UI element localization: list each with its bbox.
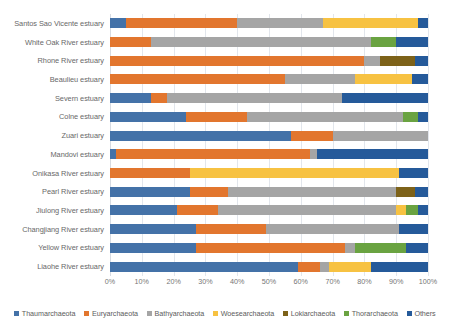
gridline-100 (428, 14, 429, 276)
bar-segment-bathyarchaeota[interactable] (364, 56, 380, 66)
bar-segment-euryarchaeota[interactable] (177, 205, 218, 215)
stacked-bar[interactable] (110, 18, 428, 28)
bar-segment-euryarchaeota[interactable] (190, 187, 228, 197)
bar-segment-euryarchaeota[interactable] (291, 131, 332, 141)
bar-row (110, 220, 428, 239)
bar-segment-euryarchaeota[interactable] (110, 56, 364, 66)
stacked-bar[interactable] (110, 56, 428, 66)
x-tick-label: 50% (262, 277, 276, 286)
bar-row (110, 201, 428, 220)
bar-segment-bathyarchaeota[interactable] (151, 37, 370, 47)
bar-segment-woesearchaeota[interactable] (396, 205, 406, 215)
stacked-bar[interactable] (110, 37, 428, 47)
bar-segment-euryarchaeota[interactable] (196, 224, 266, 234)
stacked-bar[interactable] (110, 205, 428, 215)
stacked-bar[interactable] (110, 149, 428, 159)
bar-segment-euryarchaeota[interactable] (196, 243, 345, 253)
x-tick-label: 80% (357, 277, 371, 286)
bar-segment-others[interactable] (406, 243, 428, 253)
x-tick-label: 90% (389, 277, 403, 286)
bar-segment-others[interactable] (412, 74, 428, 84)
bar-segment-thorarchaeota[interactable] (355, 243, 406, 253)
stacked-bar[interactable] (110, 262, 428, 272)
legend-swatch-icon (213, 311, 218, 316)
legend-label: Woesearchaeota (221, 309, 275, 318)
stacked-bar[interactable] (110, 224, 428, 234)
bar-segment-thorarchaeota[interactable] (403, 112, 419, 122)
stacked-bar[interactable] (110, 243, 428, 253)
bar-segment-bathyarchaeota[interactable] (247, 112, 403, 122)
stacked-bar[interactable] (110, 168, 428, 178)
bar-segment-others[interactable] (399, 168, 428, 178)
bar-segment-thaumarchaeota[interactable] (110, 93, 151, 103)
legend-item-thorarchaeota[interactable]: Thorarchaeota (344, 309, 398, 318)
bar-segment-bathyarchaeota[interactable] (333, 131, 428, 141)
bar-segment-thaumarchaeota[interactable] (110, 131, 291, 141)
bar-segment-thorarchaeota[interactable] (371, 37, 396, 47)
bar-segment-euryarchaeota[interactable] (126, 18, 237, 28)
bar-segment-euryarchaeota[interactable] (151, 93, 167, 103)
stacked-bar[interactable] (110, 112, 428, 122)
bar-segment-others[interactable] (418, 205, 428, 215)
bar-segment-bathyarchaeota[interactable] (167, 93, 342, 103)
bar-segment-thaumarchaeota[interactable] (110, 243, 196, 253)
bar-rows (110, 14, 428, 276)
bar-segment-woesearchaeota[interactable] (355, 74, 412, 84)
bar-segment-bathyarchaeota[interactable] (285, 74, 355, 84)
bar-segment-bathyarchaeota[interactable] (320, 262, 330, 272)
category-label: Rhone River estuary (0, 51, 104, 70)
legend-item-woesearchaeota[interactable]: Woesearchaeota (213, 309, 274, 318)
bar-segment-others[interactable] (396, 37, 428, 47)
bar-segment-woesearchaeota[interactable] (323, 18, 418, 28)
legend-swatch-icon (84, 311, 89, 316)
bar-segment-others[interactable] (418, 18, 428, 28)
category-label: Pearl River estuary (0, 182, 104, 201)
bar-segment-thaumarchaeota[interactable] (110, 205, 177, 215)
bar-segment-euryarchaeota[interactable] (298, 262, 320, 272)
bar-segment-woesearchaeota[interactable] (190, 168, 400, 178)
bar-segment-euryarchaeota[interactable] (110, 168, 190, 178)
bar-segment-others[interactable] (371, 262, 428, 272)
bar-row (110, 108, 428, 127)
bar-segment-thaumarchaeota[interactable] (110, 18, 126, 28)
bar-segment-thaumarchaeota[interactable] (110, 262, 298, 272)
bar-segment-euryarchaeota[interactable] (110, 37, 151, 47)
legend-swatch-icon (14, 311, 19, 316)
bar-segment-bathyarchaeota[interactable] (266, 224, 400, 234)
legend-item-bathyarchaeota[interactable]: Bathyarchaeota (147, 309, 204, 318)
bar-segment-bathyarchaeota[interactable] (218, 205, 396, 215)
stacked-bar[interactable] (110, 187, 428, 197)
legend-item-thaumarchaeota[interactable]: Thaumarchaeota (14, 309, 75, 318)
bar-segment-thaumarchaeota[interactable] (110, 224, 196, 234)
bar-row (110, 33, 428, 52)
bar-segment-thaumarchaeota[interactable] (110, 187, 190, 197)
bar-segment-bathyarchaeota[interactable] (228, 187, 397, 197)
stacked-bar[interactable] (110, 131, 428, 141)
legend-item-others[interactable]: Others (407, 309, 436, 318)
x-tick-label: 20% (166, 277, 180, 286)
bar-row (110, 257, 428, 276)
category-label: Santos Sao Vicente estuary (0, 14, 104, 33)
bar-segment-lokiarchaeota[interactable] (380, 56, 415, 66)
stacked-bar[interactable] (110, 74, 428, 84)
bar-segment-others[interactable] (317, 149, 428, 159)
bar-segment-woesearchaeota[interactable] (329, 262, 370, 272)
legend-item-euryarchaeota[interactable]: Euryarchaeota (84, 309, 138, 318)
bar-segment-others[interactable] (418, 112, 428, 122)
stacked-bar[interactable] (110, 93, 428, 103)
bar-row (110, 145, 428, 164)
bar-segment-bathyarchaeota[interactable] (237, 18, 323, 28)
bar-segment-thorarchaeota[interactable] (406, 205, 419, 215)
category-label: Yellow River estuary (0, 239, 104, 258)
bar-segment-euryarchaeota[interactable] (186, 112, 246, 122)
bar-segment-lokiarchaeota[interactable] (396, 187, 415, 197)
bar-segment-others[interactable] (399, 224, 428, 234)
bar-segment-others[interactable] (415, 56, 428, 66)
bar-segment-thaumarchaeota[interactable] (110, 112, 186, 122)
bar-segment-others[interactable] (415, 187, 428, 197)
bar-segment-euryarchaeota[interactable] (116, 149, 310, 159)
bar-segment-others[interactable] (342, 93, 428, 103)
bar-segment-euryarchaeota[interactable] (110, 74, 285, 84)
bar-segment-bathyarchaeota[interactable] (345, 243, 355, 253)
legend-item-lokiarchaeota[interactable]: Lokiarchaeota (283, 309, 335, 318)
